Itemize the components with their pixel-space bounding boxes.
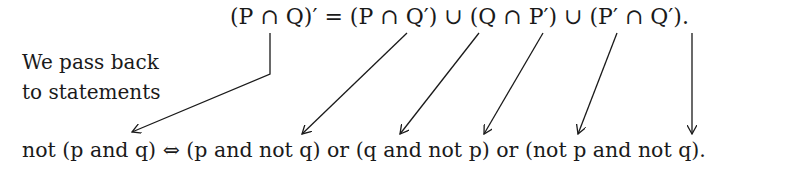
mapping-arrows <box>0 0 807 173</box>
arrow-p-and-not-q <box>302 33 407 134</box>
arrow-q-and-not-p <box>484 33 543 134</box>
arrow-union-to-or-2 <box>578 33 617 134</box>
arrow-union-to-or-1 <box>400 33 479 134</box>
arrow-intersection-to-not-and <box>132 33 270 132</box>
